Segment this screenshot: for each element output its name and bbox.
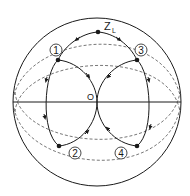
label-4: 4	[118, 148, 124, 159]
dashed-circle-upper-1	[14, 44, 180, 95]
label-1: 1	[53, 45, 59, 56]
arrow-icon	[44, 114, 45, 118]
label-origin: O	[87, 92, 94, 102]
dashed-circle-lower-1	[14, 108, 180, 160]
point-zl	[96, 30, 101, 35]
path-1-to-2-outer	[46, 60, 59, 146]
arrow-icon	[150, 124, 151, 128]
label-2: 2	[72, 148, 78, 159]
point-4	[135, 144, 140, 149]
path-3-to-4-outer	[137, 60, 149, 146]
point-1	[56, 58, 61, 63]
arrow-icon	[46, 77, 47, 81]
arrow-icon	[76, 37, 80, 40]
path-zl-to-1	[58, 32, 98, 60]
arrow-icon	[148, 77, 149, 81]
point-3	[135, 58, 140, 63]
smith-chart-diagram: 1 3 2 4 Z L O	[0, 0, 190, 196]
label-load-sub: L	[112, 27, 116, 34]
label-load-z: Z	[104, 20, 111, 32]
path-O-to-4	[97, 102, 137, 146]
label-3: 3	[138, 45, 144, 56]
path-zl-to-3	[98, 32, 137, 60]
point-2	[57, 144, 62, 149]
smith-chart-svg: 1 3 2 4 Z L O	[0, 0, 190, 196]
